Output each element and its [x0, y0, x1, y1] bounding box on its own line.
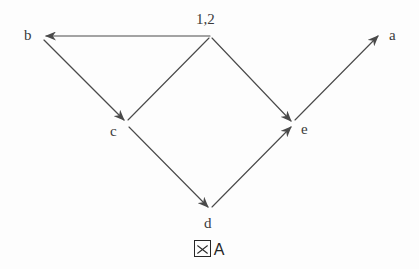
edge-b-to-c [44, 40, 124, 120]
figure-box-glyph-icon [194, 240, 211, 257]
edge-top-to-e [212, 38, 291, 121]
node-label-top: 1,2 [196, 12, 215, 27]
edge-e-to-a [295, 36, 378, 120]
node-label-e: e [301, 122, 308, 137]
edge-d-to-e [212, 127, 291, 207]
node-label-b: b [24, 28, 32, 43]
figure-container: 1,2 b a c e d A [0, 0, 419, 269]
node-label-d: d [204, 216, 212, 231]
node-label-a: a [389, 28, 396, 43]
figure-caption: A [0, 240, 419, 259]
figure-caption-text: A [214, 241, 226, 259]
edge-c-to-d [129, 127, 208, 207]
edge-c-to-top [128, 38, 209, 120]
node-label-c: c [110, 124, 117, 139]
